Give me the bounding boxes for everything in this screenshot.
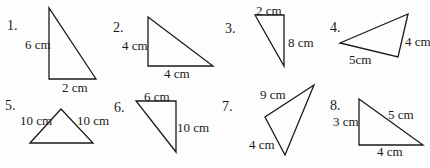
triangle-7: 7.9 cm4 cm xyxy=(222,85,314,155)
triangle-shape xyxy=(148,17,213,66)
triangle-shape xyxy=(340,14,408,57)
side-length-label: 4 cm xyxy=(164,66,190,81)
side-length-label: 4 cm xyxy=(249,137,275,152)
side-length-label: 5 cm xyxy=(388,107,414,122)
triangle-number: 1. xyxy=(7,18,18,33)
triangle-number: 8. xyxy=(330,98,341,113)
triangle-number: 4. xyxy=(330,20,341,35)
side-length-label: 6 cm xyxy=(25,37,51,52)
triangle-number: 6. xyxy=(114,100,125,115)
side-length-label: 4 cm xyxy=(405,34,430,49)
triangle-5: 5.10 cm10 cm xyxy=(5,98,109,143)
triangle-4: 4.4 cm5cm xyxy=(330,14,430,67)
triangle-shape xyxy=(255,15,284,66)
side-length-label: 5cm xyxy=(349,52,371,67)
triangle-shape xyxy=(136,101,176,152)
side-length-label: 10 cm xyxy=(177,120,209,135)
triangle-number: 5. xyxy=(5,98,16,113)
side-length-label: 4 cm xyxy=(122,38,148,53)
side-length-label: 4 cm xyxy=(377,144,403,159)
side-length-label: 10 cm xyxy=(77,113,109,128)
triangles-worksheet: 1.6 cm2 cm2.4 cm4 cm3.2 cm8 cm4.4 cm5cm5… xyxy=(0,0,430,168)
side-length-label: 2 cm xyxy=(62,80,88,95)
triangle-3: 3.2 cm8 cm xyxy=(225,3,314,66)
side-length-label: 6 cm xyxy=(144,89,170,104)
triangle-6: 6.6 cm10 cm xyxy=(114,89,209,152)
triangle-number: 7. xyxy=(222,99,233,114)
side-length-label: 10 cm xyxy=(20,113,52,128)
side-length-label: 2 cm xyxy=(256,3,282,18)
triangles-figure: 1.6 cm2 cm2.4 cm4 cm3.2 cm8 cm4.4 cm5cm5… xyxy=(0,0,430,168)
triangle-number: 3. xyxy=(225,21,236,36)
triangle-1: 1.6 cm2 cm xyxy=(7,8,96,95)
triangle-shape xyxy=(49,8,96,79)
side-length-label: 3 cm xyxy=(333,114,359,129)
triangle-8: 8.3 cm5 cm4 cm xyxy=(330,98,423,159)
triangle-2: 2.4 cm4 cm xyxy=(113,17,213,81)
side-length-label: 8 cm xyxy=(288,35,314,50)
triangle-shape xyxy=(359,99,423,145)
triangle-number: 2. xyxy=(113,20,124,35)
side-length-label: 9 cm xyxy=(260,87,286,102)
